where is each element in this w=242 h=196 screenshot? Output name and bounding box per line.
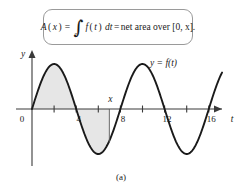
formula-second-equals: = [112, 22, 120, 32]
origin-label: 0 [20, 114, 25, 124]
curve-label: y = f(t) [149, 58, 177, 69]
sine-wave-plot: 481216 0 y t x y = f(t) [0, 44, 242, 169]
y-axis-label: y [20, 49, 26, 59]
x-tick-label-16: 16 [207, 114, 217, 124]
differential-dt: dt [105, 22, 112, 32]
figure-container: A(x) = ∫ x 0 f(t) dt = net area over [0,… [0, 0, 242, 196]
formula-expression: A(x) = ∫ x 0 f(t) dt = net area over [0,… [44, 10, 192, 44]
t-axis-label: t [231, 114, 234, 124]
integral-limits: x 0 [81, 18, 84, 37]
y-axis-arrow-icon [29, 50, 36, 58]
formula-callout-box: A(x) = ∫ x 0 f(t) dt = net area over [0,… [43, 9, 193, 45]
x-tick-label-4: 4 [76, 114, 81, 124]
x-tick-label-12: 12 [163, 114, 172, 124]
figure-caption: (a) [0, 172, 242, 182]
integral-upper-limit: x [79, 17, 82, 23]
formula-first-equals: = [63, 22, 71, 32]
formula-rhs-text: net area over [0, x]. [121, 22, 195, 32]
x-tick-label-8: 8 [121, 114, 126, 124]
integral-lower-limit: 0 [74, 32, 77, 38]
x-variable-label: x [107, 94, 113, 104]
t-axis-arrow-icon [214, 106, 222, 113]
integral-operator: ∫ x 0 [74, 18, 85, 37]
integrand-close-paren: ) [97, 22, 103, 32]
